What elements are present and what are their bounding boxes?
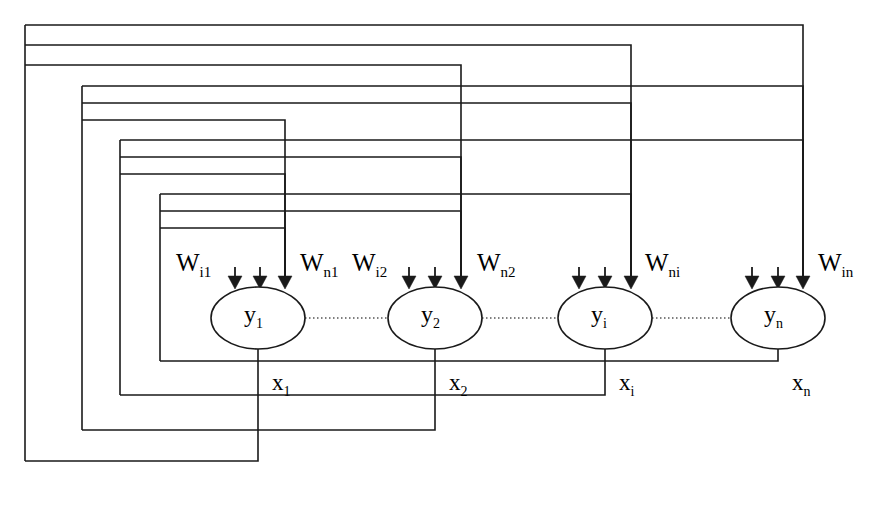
- output-label-xn: xn: [792, 370, 811, 400]
- arrow-head: [278, 276, 292, 289]
- input-arrow-n1-1: [228, 267, 242, 289]
- input-arrow-n2-3: [454, 267, 468, 289]
- output-label-x2: x2: [449, 370, 468, 400]
- arrow-head: [745, 276, 759, 289]
- feedback-return-path: [120, 349, 605, 395]
- input-arrow-n3-1: [572, 267, 586, 289]
- input-arrow-n1-3: [278, 267, 292, 289]
- input-arrow-n3-3: [624, 267, 638, 289]
- input-arrow-n3-2: [598, 267, 612, 289]
- input-arrow-n4-2: [771, 267, 785, 289]
- feedback-branch-2: [120, 157, 461, 283]
- output-label-xi: xi: [619, 370, 634, 400]
- feedback-loop-layer: [25, 25, 803, 461]
- input-arrow-n4-3: [796, 267, 810, 289]
- neuron-label-n3: yi: [591, 301, 607, 332]
- feedback-branch-1: [25, 25, 803, 283]
- weight-label-w_in: Win: [818, 249, 853, 281]
- arrow-head: [572, 276, 586, 289]
- input-arrow-n1-2: [253, 267, 267, 289]
- feedback-return-path: [25, 349, 258, 461]
- feedback-branch-1: [160, 194, 631, 283]
- input-arrow-n2-1: [402, 267, 416, 289]
- neuron-label-n4: yn: [764, 301, 783, 332]
- arrow-head: [402, 276, 416, 289]
- arrow-head: [624, 276, 638, 289]
- input-arrow-n4-1: [745, 267, 759, 289]
- network-svg: [0, 0, 883, 530]
- arrow-head: [454, 276, 468, 289]
- input-arrow-n2-2: [428, 267, 442, 289]
- neuron-label-n1: y1: [244, 301, 263, 332]
- feedback-branch-2: [25, 45, 631, 283]
- arrow-head: [228, 276, 242, 289]
- weight-label-w_n1: Wn1: [300, 249, 339, 281]
- arrow-head: [796, 276, 810, 289]
- weight-label-w_i1: Wi1: [176, 249, 211, 281]
- feedback-return-path: [160, 349, 778, 361]
- weight-label-w_n2: Wn2: [477, 249, 516, 281]
- output-label-x1: x1: [272, 370, 291, 400]
- neuron-label-n2: y2: [421, 301, 440, 332]
- diagram-canvas: Wi1Wn1Wi2Wn2WniWiny1y2yiynx1x2xixn: [0, 0, 883, 530]
- weight-label-w_ni: Wni: [645, 249, 680, 281]
- weight-label-w_i2: Wi2: [352, 249, 387, 281]
